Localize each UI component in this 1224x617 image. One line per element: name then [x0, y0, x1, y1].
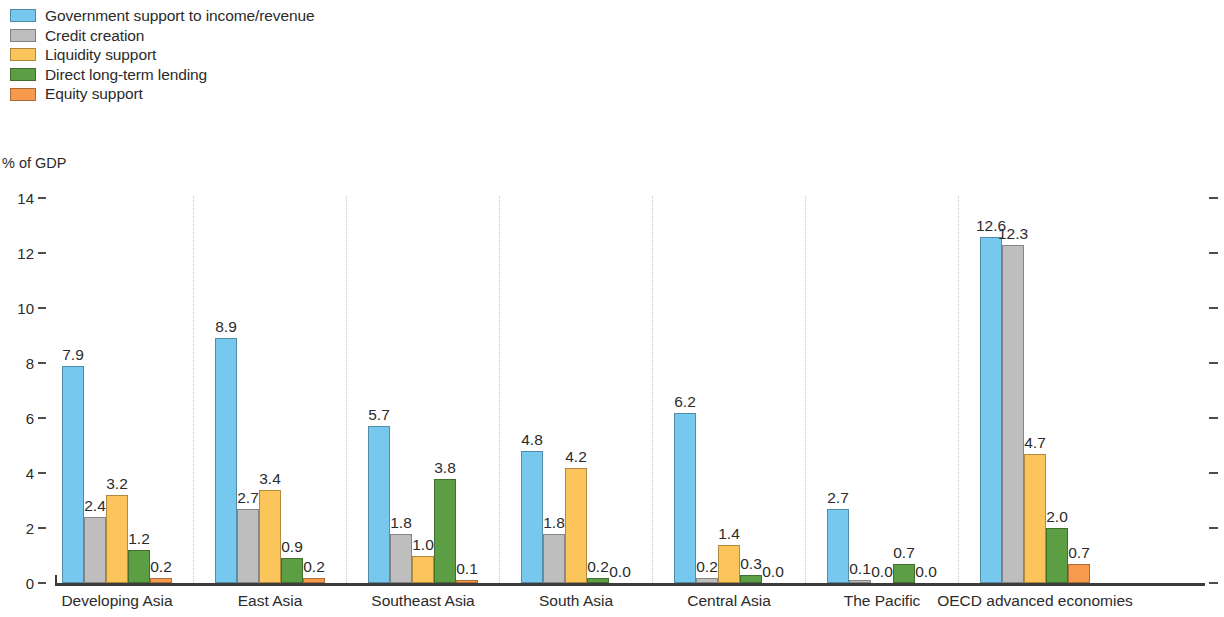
- bar-value-label: 3.8: [434, 460, 456, 476]
- bar-value-label: 12.3: [998, 226, 1028, 242]
- x-axis-category-label: Developing Asia: [61, 592, 172, 610]
- y-axis-tick-mark: [38, 362, 46, 364]
- bar[interactable]: [434, 479, 456, 584]
- bar[interactable]: [718, 545, 740, 584]
- bar[interactable]: [1024, 454, 1046, 583]
- bar-value-label: 4.2: [565, 449, 587, 465]
- x-axis-category-label: The Pacific: [844, 592, 921, 610]
- bar-value-label: 3.2: [106, 476, 128, 492]
- bar-value-label: 4.8: [521, 432, 543, 448]
- y-axis-tick-label: 14: [4, 190, 34, 207]
- y-axis-tick-mark-right: [1209, 527, 1218, 529]
- x-axis-category-label: OECD advanced economies: [937, 592, 1133, 610]
- bar-value-label: 0.2: [150, 559, 172, 575]
- y-axis-tick-mark-right: [1209, 307, 1218, 309]
- bar[interactable]: [412, 556, 434, 584]
- bar[interactable]: [237, 509, 259, 583]
- group-separator-line: [499, 196, 500, 583]
- bar[interactable]: [740, 575, 762, 583]
- bar[interactable]: [565, 468, 587, 584]
- bar-value-label: 5.7: [368, 407, 390, 423]
- bar[interactable]: [390, 534, 412, 584]
- bar-chart-plot: 14121086420 7.92.43.21.20.28.92.73.40.90…: [0, 0, 1224, 617]
- bar[interactable]: [128, 550, 150, 583]
- bar-value-label: 0.7: [1068, 545, 1090, 561]
- bar[interactable]: [1046, 528, 1068, 583]
- y-axis-tick-mark-right: [1209, 362, 1218, 364]
- y-axis-tick-mark-right: [1209, 417, 1218, 419]
- bar[interactable]: [62, 366, 84, 583]
- bar-value-label: 4.7: [1024, 435, 1046, 451]
- bar[interactable]: [259, 490, 281, 584]
- bar-value-label: 0.1: [456, 561, 478, 577]
- bar-value-label: 0.0: [915, 564, 937, 580]
- y-axis-tick-mark: [38, 417, 46, 419]
- x-axis-category-label: Central Asia: [687, 592, 771, 610]
- bar-value-label: 1.0: [412, 537, 434, 553]
- y-axis-tick-mark-right: [1209, 472, 1218, 474]
- y-axis-tick-mark: [38, 472, 46, 474]
- y-axis-tick-label: 8: [4, 355, 34, 372]
- group-separator-line: [958, 196, 959, 583]
- bar-value-label: 0.1: [849, 561, 871, 577]
- bar-value-label: 3.4: [259, 471, 281, 487]
- y-axis-tick-mark: [38, 527, 46, 529]
- y-axis-tick-mark: [38, 582, 46, 584]
- y-axis-tick-label: 2: [4, 520, 34, 537]
- group-separator-line: [805, 196, 806, 583]
- bar-value-label: 0.0: [609, 564, 631, 580]
- bar[interactable]: [106, 495, 128, 583]
- bar-value-label: 6.2: [674, 394, 696, 410]
- bar-value-label: 0.0: [762, 564, 784, 580]
- y-axis-tick-mark: [38, 197, 46, 199]
- bar-value-label: 0.0: [871, 564, 893, 580]
- bar[interactable]: [1068, 564, 1090, 583]
- bar-value-label: 2.7: [827, 490, 849, 506]
- x-axis-baseline: [55, 583, 1205, 586]
- y-axis-tick-mark: [38, 307, 46, 309]
- bar-value-label: 1.2: [128, 531, 150, 547]
- group-separator-line: [652, 196, 653, 583]
- bar[interactable]: [893, 564, 915, 583]
- bar-value-label: 2.4: [84, 498, 106, 514]
- y-axis-tick-mark-right: [1209, 197, 1218, 199]
- bar[interactable]: [1002, 245, 1024, 583]
- bar-value-label: 0.2: [696, 559, 718, 575]
- bar-value-label: 1.8: [390, 515, 412, 531]
- bar[interactable]: [543, 534, 565, 584]
- x-axis-category-label: South Asia: [539, 592, 613, 610]
- bar-value-label: 0.3: [740, 556, 762, 572]
- bar[interactable]: [215, 338, 237, 583]
- bar[interactable]: [674, 413, 696, 584]
- x-axis-category-label: Southeast Asia: [371, 592, 474, 610]
- bar[interactable]: [368, 426, 390, 583]
- bar[interactable]: [281, 558, 303, 583]
- bar-value-label: 1.8: [543, 515, 565, 531]
- group-separator-line: [346, 196, 347, 583]
- bar-value-label: 0.9: [281, 539, 303, 555]
- bar-value-label: 0.7: [893, 545, 915, 561]
- bar-value-label: 7.9: [62, 347, 84, 363]
- bar-value-label: 0.2: [303, 559, 325, 575]
- bar[interactable]: [980, 237, 1002, 584]
- y-axis-tick-mark-right: [1209, 252, 1218, 254]
- bar-value-label: 2.7: [237, 490, 259, 506]
- bar-value-label: 1.4: [718, 526, 740, 542]
- y-axis-tick-label: 12: [4, 245, 34, 262]
- y-axis-tick-label: 4: [4, 465, 34, 482]
- y-axis-tick-mark: [38, 252, 46, 254]
- bar-value-label: 0.2: [587, 559, 609, 575]
- bar-value-label: 2.0: [1046, 509, 1068, 525]
- y-axis-tick-label: 0: [4, 575, 34, 592]
- bar-value-label: 8.9: [215, 319, 237, 335]
- bar[interactable]: [827, 509, 849, 583]
- y-axis-tick-label: 10: [4, 300, 34, 317]
- x-axis-category-label: East Asia: [238, 592, 303, 610]
- y-axis-tick-mark-right: [1209, 582, 1218, 584]
- group-separator-line: [193, 196, 194, 583]
- bar[interactable]: [84, 517, 106, 583]
- y-axis-tick-label: 6: [4, 410, 34, 427]
- bar[interactable]: [521, 451, 543, 583]
